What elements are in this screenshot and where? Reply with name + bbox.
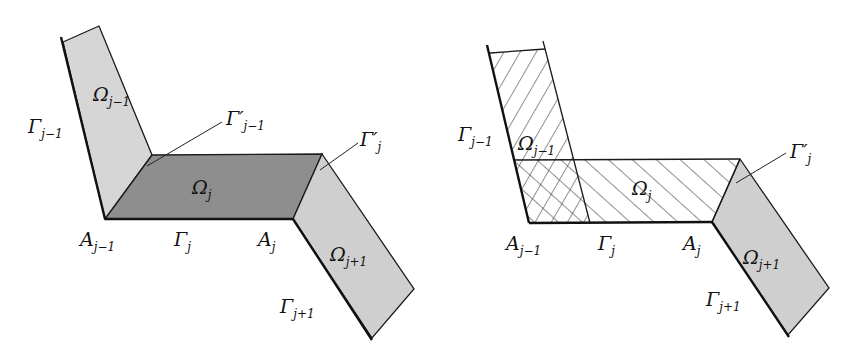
- label-gamma-j: Γj: [173, 228, 191, 254]
- label-gamma-j: Γj: [597, 232, 615, 258]
- domain-decomposition-diagram: Ωj−1 Γj−1 Γ′j−1 Γ′j Ωj Aj−1 Γj Aj Ωj+1 Γ…: [0, 0, 861, 354]
- label-gamma-prev: Γj−1: [457, 123, 493, 149]
- label-gamma-prev-prime: Γ′j−1: [225, 107, 265, 133]
- label-a-j: Aj: [256, 228, 276, 254]
- leader-gamma-j-prime: [320, 143, 358, 170]
- boundary-gamma-j: [529, 222, 712, 223]
- right-figure: Γj−1 Ωj−1 Ωj Γ′j Aj−1 Γj Aj Ωj+1 Γj+1: [457, 40, 829, 337]
- label-gamma-next: Γj+1: [279, 295, 315, 321]
- label-gamma-j-prime: Γ′j: [789, 140, 812, 166]
- label-a-prev: Aj−1: [504, 232, 541, 258]
- label-gamma-next: Γj+1: [705, 288, 741, 314]
- left-figure: Ωj−1 Γj−1 Γ′j−1 Γ′j Ωj Aj−1 Γj Aj Ωj+1 Γ…: [27, 26, 414, 340]
- label-gamma-j-prime: Γ′j: [359, 128, 382, 154]
- label-gamma-prev: Γj−1: [27, 115, 63, 141]
- label-a-j: Aj: [681, 232, 701, 258]
- label-a-prev: Aj−1: [78, 228, 115, 254]
